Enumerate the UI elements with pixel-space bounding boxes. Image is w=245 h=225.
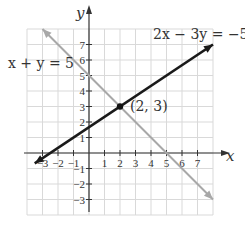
y-tick-label: −3 <box>73 194 85 206</box>
x-tick-label: 7 <box>195 157 201 169</box>
x-axis-label: x <box>226 147 235 165</box>
y-tick-label: 3 <box>80 101 86 113</box>
y-axis-label: y <box>75 4 85 22</box>
x-tick-label: 3 <box>133 157 139 169</box>
y-tick-label: 7 <box>80 39 86 51</box>
x-tick-label: 5 <box>164 157 170 169</box>
y-tick-label: 4 <box>80 85 86 97</box>
x-tick-label: −2 <box>52 157 64 169</box>
equation-label-line1: x + y = 5 <box>8 55 74 71</box>
equation-label-line2: 2x − 3y = −5 <box>153 26 245 42</box>
intersection-point <box>117 103 123 109</box>
y-tick-label: −2 <box>73 178 85 190</box>
y-axis-arrow-icon <box>86 5 92 14</box>
intersection-label: (2, 3) <box>130 98 168 114</box>
x-tick-label: 1 <box>102 157 108 169</box>
x-tick-label: 4 <box>148 157 154 169</box>
y-tick-label: −1 <box>73 163 85 175</box>
x-tick-label: 2 <box>117 157 123 169</box>
y-tick-label: 2 <box>80 116 86 128</box>
y-tick-label: 6 <box>80 54 86 66</box>
graph: −3−2−112345677654321−1−2−3 x y x + y = 5… <box>0 0 245 225</box>
